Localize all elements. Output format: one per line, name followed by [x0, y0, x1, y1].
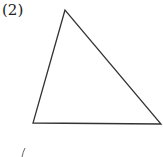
triangle	[33, 10, 161, 124]
triangle-figure	[0, 0, 163, 157]
cropped-fragment-mark	[22, 148, 25, 157]
